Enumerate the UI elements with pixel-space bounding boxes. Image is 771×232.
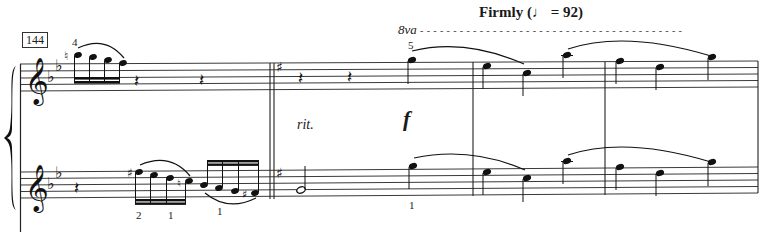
ritardando-marking: rit. (297, 118, 314, 132)
lower-rest-m1: 𝄽 (74, 178, 79, 198)
measure-number-box: 144 (22, 32, 48, 48)
tempo-text: Firmly (479, 4, 523, 20)
tempo-marking: Firmly (♩ = 92) (479, 5, 583, 20)
svg-text:♯: ♯ (276, 59, 283, 75)
fingering-lower-1c: 1 (409, 200, 415, 211)
svg-text:♭: ♭ (55, 56, 63, 75)
treble-clef-icon-upper: 𝄞 (25, 57, 49, 106)
svg-text:♯: ♯ (276, 165, 283, 181)
treble-clef-icon-lower: 𝄞 (25, 164, 49, 213)
svg-text:♮: ♮ (177, 177, 181, 190)
fingering-lower-1b: 1 (217, 206, 223, 217)
svg-text:♮: ♮ (64, 49, 68, 63)
upper-staff (20, 61, 758, 91)
fingering-lower-1a: 1 (168, 210, 174, 221)
fingering-lower-2: 2 (136, 210, 142, 221)
upper-rests-m2: 𝄽 𝄽 (298, 67, 352, 88)
svg-text:♭: ♭ (47, 67, 55, 86)
svg-text:♯: ♯ (127, 166, 133, 180)
svg-text:♯: ♯ (242, 188, 247, 201)
tempo-bpm: = 92) (547, 4, 583, 20)
fingering-upper-4: 4 (72, 37, 78, 48)
svg-text:♭: ♭ (47, 174, 55, 193)
dynamic-forte: f (403, 108, 410, 130)
half-note-icon: ♩ (532, 4, 547, 20)
ottava-dash-line: - - - - - - - - - - - - - - - - - - - - … (420, 25, 682, 36)
upper-rests-m1: 𝄽 𝄽 (134, 70, 204, 91)
ottava-label: 8va (398, 22, 417, 37)
key-signature-flats: ♭ ♭ ♭ ♭ (47, 56, 63, 193)
svg-text:𝄽: 𝄽 (347, 67, 352, 87)
brace-icon (4, 66, 16, 210)
lower-sixteenth-groups: ♯ ♮ ♯ (127, 160, 260, 205)
svg-text:𝄽: 𝄽 (134, 71, 139, 91)
svg-text:𝄽: 𝄽 (199, 70, 204, 90)
svg-text:𝄽: 𝄽 (74, 178, 79, 198)
svg-text:♭: ♭ (55, 163, 63, 182)
key-signature-sharps: ♯ ♯ (276, 59, 283, 181)
ottava-marking: 8va - - - - - - - - - - - - - - - - - - … (398, 23, 682, 36)
svg-text:𝄽: 𝄽 (298, 68, 303, 88)
fingering-upper-5: 5 (408, 40, 414, 51)
